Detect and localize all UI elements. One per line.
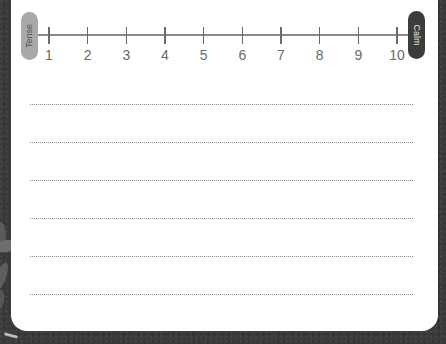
calm-endpoint-pill: Calm [408, 11, 425, 59]
scale-tick-label: 6 [230, 47, 254, 63]
writing-line[interactable] [30, 142, 413, 143]
writing-line[interactable] [30, 104, 413, 105]
scale-tick-label: 2 [76, 47, 100, 63]
scale-tick[interactable] [280, 27, 282, 44]
scale-tick[interactable] [203, 27, 205, 44]
scale-tick-label: 7 [269, 47, 293, 63]
mood-scale: Tense Calm 12345678910 [0, 0, 446, 70]
writing-line[interactable] [30, 218, 413, 219]
scale-tick[interactable] [396, 27, 398, 44]
scale-tick[interactable] [48, 27, 50, 44]
scale-tick-label: 3 [114, 47, 138, 63]
scale-tick[interactable] [358, 27, 360, 44]
writing-line[interactable] [30, 256, 413, 257]
scale-axis-line [37, 34, 409, 36]
scale-tick-label: 1 [37, 47, 61, 63]
scale-tick-label: 9 [346, 47, 370, 63]
scale-tick[interactable] [87, 27, 89, 44]
scale-tick[interactable] [319, 27, 321, 44]
scale-tick[interactable] [126, 27, 128, 44]
scale-tick-label: 8 [308, 47, 332, 63]
scale-tick-label: 10 [385, 47, 409, 63]
scale-tick[interactable] [164, 27, 166, 44]
calm-label: Calm [412, 24, 422, 45]
tense-label: Tense [25, 24, 35, 48]
writing-line[interactable] [30, 294, 413, 295]
scale-tick-label: 4 [153, 47, 177, 63]
scale-tick-label: 5 [192, 47, 216, 63]
writing-line[interactable] [30, 180, 413, 181]
tense-endpoint-pill: Tense [21, 12, 38, 60]
scale-tick[interactable] [242, 27, 244, 44]
